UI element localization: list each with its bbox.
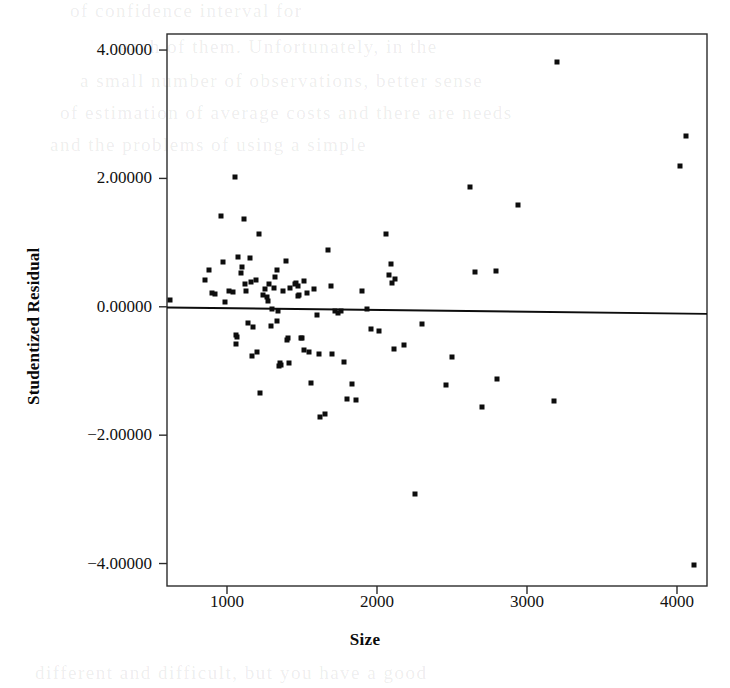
data-point	[242, 216, 247, 221]
data-point	[257, 231, 262, 236]
data-point	[285, 335, 290, 340]
data-point	[233, 175, 238, 180]
data-point	[468, 185, 473, 190]
data-point	[384, 232, 389, 237]
data-point	[312, 287, 317, 292]
data-point	[315, 313, 320, 318]
data-point	[376, 328, 381, 333]
data-point	[275, 267, 280, 272]
data-point	[249, 353, 254, 358]
data-point	[304, 290, 309, 295]
data-point	[273, 275, 278, 280]
data-point	[339, 309, 344, 314]
data-point	[480, 404, 485, 409]
data-point	[393, 276, 398, 281]
data-point	[238, 271, 243, 276]
x-tick-label: 4000	[660, 592, 694, 612]
data-point	[301, 279, 306, 284]
y-tick-label: 2.00000	[97, 168, 152, 188]
data-point	[262, 287, 267, 292]
x-tick-label: 3000	[510, 592, 544, 612]
data-point	[253, 277, 258, 282]
plot-canvas	[0, 0, 730, 688]
data-point	[300, 335, 305, 340]
data-point	[306, 349, 311, 354]
data-point	[555, 59, 560, 64]
data-point	[552, 398, 557, 403]
data-point	[279, 362, 284, 367]
data-point	[255, 350, 260, 355]
data-point	[270, 307, 275, 312]
data-point	[243, 289, 248, 294]
data-point	[236, 254, 241, 259]
data-point	[251, 325, 256, 330]
data-point	[330, 351, 335, 356]
data-point	[391, 346, 396, 351]
y-tick-label: −2.00000	[87, 425, 152, 445]
data-point	[342, 359, 347, 364]
data-point	[387, 273, 392, 278]
x-axis-title: Size	[0, 630, 730, 650]
data-point	[495, 376, 500, 381]
data-point	[231, 290, 236, 295]
y-tick-label: −4.00000	[87, 554, 152, 574]
data-point	[247, 256, 252, 261]
x-tick-label: 2000	[360, 592, 394, 612]
data-point	[322, 411, 327, 416]
data-point	[219, 214, 224, 219]
data-point	[369, 326, 374, 331]
data-point	[309, 381, 314, 386]
data-point	[295, 283, 300, 288]
data-point	[345, 397, 350, 402]
data-point	[207, 268, 212, 273]
data-point	[316, 352, 321, 357]
data-point	[390, 281, 395, 286]
reference-fit-line	[167, 307, 707, 313]
data-point	[354, 397, 359, 402]
data-point	[516, 202, 521, 207]
data-point	[274, 318, 279, 323]
data-point	[281, 289, 286, 294]
data-point	[268, 324, 273, 329]
data-point	[450, 355, 455, 360]
data-point	[286, 361, 291, 366]
data-point	[360, 288, 365, 293]
data-point	[444, 383, 449, 388]
data-point	[283, 258, 288, 263]
data-point	[297, 292, 302, 297]
x-tick-label: 1000	[210, 592, 244, 612]
data-point	[222, 300, 227, 305]
data-point	[420, 322, 425, 327]
y-tick-label: 4.00000	[97, 40, 152, 60]
data-point	[325, 247, 330, 252]
y-axis-title: Studentized Residual	[14, 196, 54, 456]
data-point	[202, 277, 207, 282]
data-point	[349, 382, 354, 387]
data-point	[402, 343, 407, 348]
data-point	[265, 299, 270, 304]
data-point	[276, 309, 281, 314]
data-point	[493, 269, 498, 274]
data-point	[221, 259, 226, 264]
data-point	[234, 342, 239, 347]
data-point	[168, 297, 173, 302]
scatter-plot-figure: Studentized Residual Size 4.000002.00000…	[0, 0, 730, 688]
data-point	[412, 492, 417, 497]
data-point	[271, 286, 276, 291]
data-point	[234, 334, 239, 339]
data-point	[691, 563, 696, 568]
data-point	[364, 306, 369, 311]
data-point	[240, 264, 245, 269]
data-point	[678, 163, 683, 168]
data-point	[258, 390, 263, 395]
data-point	[328, 283, 333, 288]
data-point	[243, 281, 248, 286]
data-point	[472, 270, 477, 275]
data-point	[388, 262, 393, 267]
data-point	[246, 320, 251, 325]
y-tick-label: 0.00000	[97, 297, 152, 317]
data-point	[213, 291, 218, 296]
data-point	[684, 134, 689, 139]
